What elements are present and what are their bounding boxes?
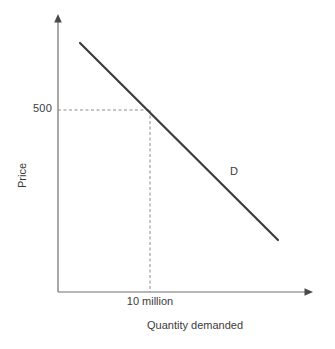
y-axis-tick-label-500: 500	[33, 103, 52, 114]
demand-curve-line	[80, 43, 278, 240]
demand-curve-label: D	[230, 166, 238, 177]
x-axis-title: Quantity demanded	[147, 320, 243, 331]
x-axis-arrowhead-icon	[305, 288, 314, 296]
demand-curve-figure: 500 Price 10 million Quantity demanded D	[0, 0, 335, 349]
x-axis-tick-label-10-million: 10 million	[127, 296, 173, 307]
y-axis-arrowhead-icon	[54, 14, 62, 23]
y-axis-title: Price	[17, 151, 28, 201]
